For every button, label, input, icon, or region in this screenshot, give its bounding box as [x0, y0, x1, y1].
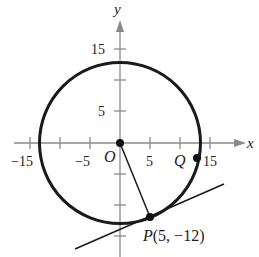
label-p: P(5, −12): [142, 227, 204, 245]
y-tick-label: 5: [98, 104, 105, 119]
x-axis-arrow-icon: [234, 139, 246, 147]
circle-tangent-diagram: x −15 −5 5 15 y 15 5 O Q P(5, −12): [0, 0, 259, 257]
y-axis-label: y: [112, 1, 121, 17]
x-tick-label: 15: [203, 154, 217, 169]
y-axis-arrow-icon: [116, 20, 124, 32]
point-origin: [116, 139, 124, 147]
label-origin: O: [104, 148, 116, 165]
label-q: Q: [174, 152, 186, 169]
y-tick-label: 15: [91, 42, 105, 57]
point-q: [193, 154, 201, 162]
x-tick-label: −15: [11, 154, 33, 169]
x-tick-label: −5: [75, 154, 90, 169]
x-tick-label: 5: [146, 154, 153, 169]
x-axis: x −15 −5 5 15: [11, 135, 254, 169]
point-p: [146, 213, 154, 221]
x-axis-label: x: [246, 135, 254, 151]
